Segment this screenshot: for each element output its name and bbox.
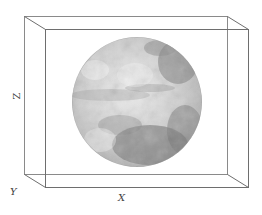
z-axis-label: Z — [12, 93, 22, 100]
sphere — [60, 30, 220, 180]
y-axis-label: Y — [10, 187, 17, 197]
x-axis-label: X — [118, 193, 125, 203]
3d-box-figure — [0, 0, 262, 215]
